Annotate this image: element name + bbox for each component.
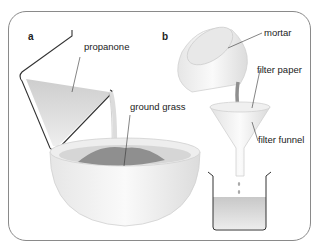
ground-grass-label: ground grass — [130, 101, 185, 112]
propanone-leader-line — [72, 57, 80, 92]
drop — [238, 190, 240, 194]
propanone-label: propanone — [84, 41, 129, 52]
filter-paper-label: filter paper — [257, 64, 302, 75]
tilted-mortar — [178, 20, 248, 92]
mortar-bowl — [50, 138, 200, 226]
filter-funnel-label: filter funnel — [258, 134, 304, 145]
filter-paper-leader-line — [252, 70, 260, 108]
drop — [238, 182, 240, 186]
panel-a-letter: a — [28, 31, 34, 42]
collecting-beaker — [208, 172, 271, 230]
mortar-label: mortar — [264, 27, 291, 38]
panel-b-letter: b — [162, 31, 168, 42]
